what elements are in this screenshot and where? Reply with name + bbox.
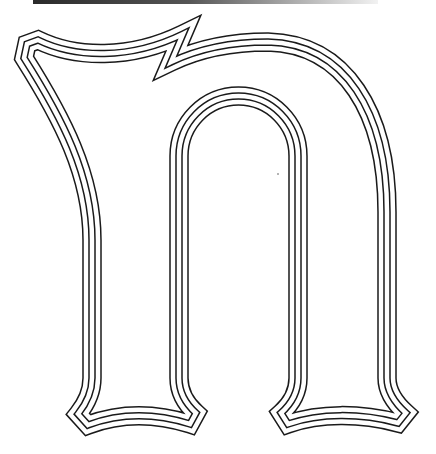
ink-speck [277, 173, 279, 175]
letter-n-canvas [0, 0, 436, 454]
top-dark-bar [33, 0, 378, 4]
